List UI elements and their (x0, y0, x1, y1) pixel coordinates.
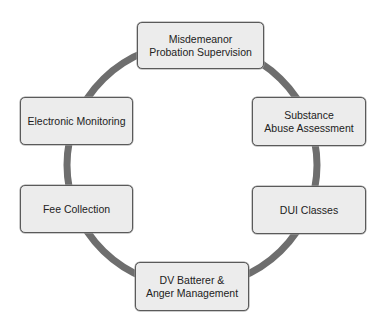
node-label: DV Batterer & Anger Management (146, 274, 238, 300)
node-dv-batterer-anger-management: DV Batterer & Anger Management (135, 262, 249, 311)
node-label: Substance Abuse Assessment (264, 109, 353, 135)
node-misdemeanor-probation-supervision: Misdemeanor Probation Supervision (137, 22, 264, 69)
node-dui-classes: DUI Classes (252, 186, 366, 234)
node-label: Fee Collection (43, 203, 110, 216)
cycle-diagram: Misdemeanor Probation Supervision Substa… (0, 0, 383, 325)
node-label: Misdemeanor Probation Supervision (149, 33, 252, 59)
node-substance-abuse-assessment: Substance Abuse Assessment (252, 97, 366, 146)
node-electronic-monitoring: Electronic Monitoring (20, 97, 133, 145)
node-label: DUI Classes (280, 204, 338, 217)
node-fee-collection: Fee Collection (20, 185, 133, 233)
node-label: Electronic Monitoring (27, 115, 125, 128)
